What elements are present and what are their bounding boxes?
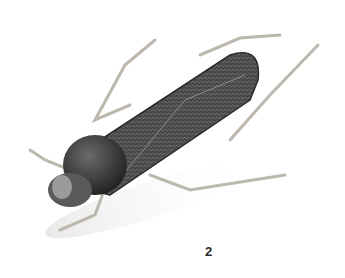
illustration-canvas: 2 bbox=[0, 0, 345, 278]
figure-label: 2 bbox=[205, 244, 212, 259]
eye-highlight bbox=[52, 175, 72, 199]
insect-illustration bbox=[0, 0, 345, 278]
